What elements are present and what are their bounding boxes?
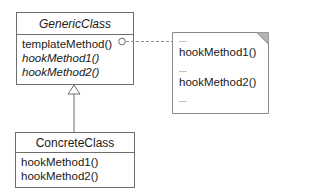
note-hook-method-2: hookMethod2()	[179, 75, 256, 91]
note-text: ... hookMethod1() ... hookMethod2() ...	[179, 35, 256, 105]
note-hook-method-1: hookMethod1()	[179, 45, 256, 61]
note-ellipsis: ...	[179, 95, 256, 105]
note-anchor-circle-icon	[119, 38, 126, 45]
inheritance-triangle-icon	[68, 85, 80, 94]
note-ellipsis: ...	[179, 65, 256, 75]
template-method-note[interactable]: ... hookMethod1() ... hookMethod2() ...	[172, 32, 269, 114]
note-ellipsis: ...	[179, 35, 256, 45]
